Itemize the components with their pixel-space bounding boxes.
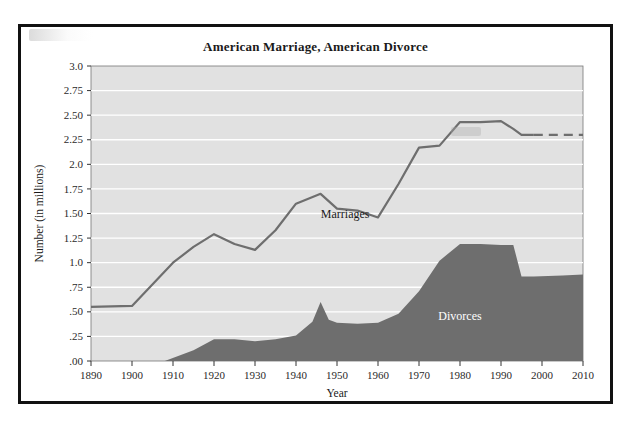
y-tick-label-0: 3.0 (69, 60, 83, 72)
y-tick-label-8: 1.0 (69, 256, 83, 268)
x-tick-label-12: 2010 (572, 369, 595, 381)
series-annotation-marriages: Marriages (321, 207, 370, 221)
x-tick-label-8: 1970 (408, 369, 431, 381)
x-tick-label-11: 2000 (531, 369, 554, 381)
x-tick-label-0: 1890 (80, 369, 103, 381)
y-tick-label-1: 2.75 (64, 84, 84, 96)
y-tick-label-5: 1.75 (64, 183, 84, 195)
x-axis-title: Year (326, 387, 347, 399)
x-tick-label-1: 1900 (121, 369, 144, 381)
x-tick-label-6: 1950 (326, 369, 349, 381)
y-tick-label-2: 2.50 (64, 109, 84, 121)
y-tick-label-9: .75 (69, 281, 83, 293)
y-tick-label-4: 2.0 (69, 158, 83, 170)
series-annotation-divorces: Divorces (438, 309, 482, 323)
y-tick-label-3: 2.25 (64, 133, 84, 145)
x-tick-label-5: 1940 (285, 369, 308, 381)
y-tick-label-12: .00 (69, 355, 83, 367)
x-tick-label-3: 1920 (203, 369, 226, 381)
x-tick-label-9: 1980 (449, 369, 472, 381)
figure-frame: American Marriage, American Divorce 3.02… (18, 24, 613, 404)
x-tick-label-7: 1960 (367, 369, 390, 381)
y-axis-title: Number (in millions) (33, 164, 46, 262)
y-tick-label-7: 1.25 (64, 232, 84, 244)
x-tick-label-4: 1930 (244, 369, 267, 381)
y-tick-label-6: 1.50 (64, 207, 84, 219)
y-tick-label-10: .50 (69, 305, 83, 317)
x-tick-label-2: 1910 (162, 369, 185, 381)
x-tick-label-10: 1990 (490, 369, 513, 381)
marriage-divorce-chart: 3.02.752.502.252.01.751.501.251.0.75.50.… (21, 27, 610, 401)
y-tick-label-11: .25 (69, 330, 83, 342)
